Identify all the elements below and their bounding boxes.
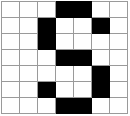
grid-cell-r5-c4[interactable] [56, 66, 74, 82]
grid-cell-r6-c3[interactable] [38, 82, 56, 98]
grid-row [2, 34, 128, 50]
grid-cell-r3-c6[interactable] [92, 34, 110, 50]
grid-cell-r6-c2[interactable] [20, 82, 38, 98]
grid-cell-r2-c1[interactable] [2, 18, 20, 34]
grid-cell-r1-c2[interactable] [20, 2, 38, 18]
grid-cell-r3-c5[interactable] [74, 34, 92, 50]
grid-cell-r2-c2[interactable] [20, 18, 38, 34]
grid-cell-r2-c6[interactable] [92, 18, 110, 34]
grid-cell-r1-c3[interactable] [38, 2, 56, 18]
grid-cell-r5-c1[interactable] [2, 66, 20, 82]
grid-cell-r1-c4[interactable] [56, 2, 74, 18]
grid-cell-r7-c2[interactable] [20, 98, 38, 114]
grid-cell-r3-c1[interactable] [2, 34, 20, 50]
grid-cell-r4-c6[interactable] [92, 50, 110, 66]
grid-body [2, 2, 128, 114]
grid-row [2, 98, 128, 114]
grid-cell-r4-c3[interactable] [38, 50, 56, 66]
grid-cell-r7-c3[interactable] [38, 98, 56, 114]
grid-cell-r3-c2[interactable] [20, 34, 38, 50]
grid-cell-r7-c6[interactable] [92, 98, 110, 114]
grid-cell-r5-c5[interactable] [74, 66, 92, 82]
grid-cell-r4-c4[interactable] [56, 50, 74, 66]
grid-row [2, 50, 128, 66]
grid-table [1, 1, 128, 114]
grid-cell-r7-c1[interactable] [2, 98, 20, 114]
grid-row [2, 66, 128, 82]
grid-cell-r3-c7[interactable] [110, 34, 128, 50]
grid-cell-r2-c5[interactable] [74, 18, 92, 34]
grid-cell-r5-c7[interactable] [110, 66, 128, 82]
grid-cell-r5-c3[interactable] [38, 66, 56, 82]
grid-cell-r6-c6[interactable] [92, 82, 110, 98]
grid-cell-r4-c2[interactable] [20, 50, 38, 66]
grid-cell-r6-c7[interactable] [110, 82, 128, 98]
grid-cell-r2-c3[interactable] [38, 18, 56, 34]
grid-row [2, 2, 128, 18]
grid-cell-r7-c4[interactable] [56, 98, 74, 114]
grid-row [2, 82, 128, 98]
grid-cell-r7-c5[interactable] [74, 98, 92, 114]
grid-cell-r1-c5[interactable] [74, 2, 92, 18]
grid-cell-r4-c5[interactable] [74, 50, 92, 66]
grid-pattern-figure [0, 0, 130, 116]
grid-cell-r6-c4[interactable] [56, 82, 74, 98]
grid-cell-r2-c7[interactable] [110, 18, 128, 34]
grid-cell-r1-c1[interactable] [2, 2, 20, 18]
grid-row [2, 18, 128, 34]
grid-cell-r6-c5[interactable] [74, 82, 92, 98]
grid-cell-r1-c7[interactable] [110, 2, 128, 18]
grid-cell-r2-c4[interactable] [56, 18, 74, 34]
grid-cell-r5-c2[interactable] [20, 66, 38, 82]
grid-cell-r3-c4[interactable] [56, 34, 74, 50]
grid-cell-r5-c6[interactable] [92, 66, 110, 82]
grid-cell-r6-c1[interactable] [2, 82, 20, 98]
grid-cell-r3-c3[interactable] [38, 34, 56, 50]
grid-cell-r1-c6[interactable] [92, 2, 110, 18]
grid-cell-r7-c7[interactable] [110, 98, 128, 114]
grid-cell-r4-c7[interactable] [110, 50, 128, 66]
grid-cell-r4-c1[interactable] [2, 50, 20, 66]
